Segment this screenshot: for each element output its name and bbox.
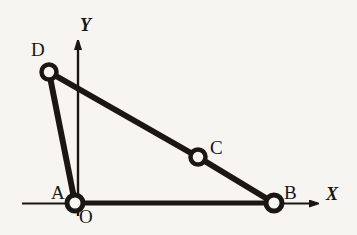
segment-D-C bbox=[49, 72, 198, 157]
origin-label-O: O bbox=[79, 207, 93, 226]
segment-C-B bbox=[198, 157, 274, 203]
x-axis-label: X bbox=[326, 185, 338, 203]
point-label-B: B bbox=[284, 183, 297, 202]
point-B-marker bbox=[266, 195, 282, 211]
axes-group bbox=[22, 49, 310, 216]
point-label-C: C bbox=[210, 138, 223, 157]
y-axis-label: Y bbox=[80, 16, 91, 34]
polygon-edges bbox=[49, 72, 274, 203]
point-D-marker bbox=[42, 65, 57, 80]
geometry-figure: D A O B C Y X bbox=[0, 0, 357, 235]
point-C-marker bbox=[191, 150, 206, 165]
point-label-D: D bbox=[31, 40, 45, 59]
point-label-A: A bbox=[51, 183, 65, 202]
